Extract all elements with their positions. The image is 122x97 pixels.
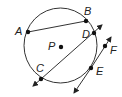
- point-e: [89, 66, 93, 70]
- label-f: F: [110, 44, 118, 56]
- label-e: E: [96, 65, 104, 77]
- point-a: [26, 30, 30, 34]
- tangent-ef-ext: [74, 68, 91, 93]
- circle-diagram: A B C D E F P: [0, 0, 122, 97]
- point-c: [39, 77, 43, 81]
- tangent-ef: [91, 37, 111, 68]
- label-a: A: [14, 25, 22, 37]
- point-f: [103, 44, 107, 48]
- label-b: B: [84, 5, 91, 17]
- label-p: P: [48, 40, 56, 52]
- label-d: D: [82, 28, 90, 40]
- label-c: C: [36, 62, 44, 74]
- point-d: [92, 31, 96, 35]
- center-p: [59, 45, 63, 49]
- point-b: [84, 19, 88, 23]
- chord-ab: [28, 21, 86, 32]
